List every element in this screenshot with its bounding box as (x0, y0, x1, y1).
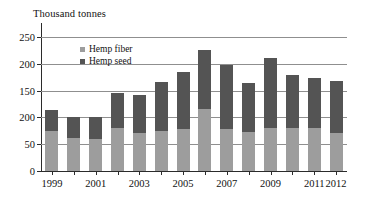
bar-segment-hemp-seed (220, 65, 233, 129)
bar-segment-hemp-seed (89, 117, 102, 140)
bar-segment-hemp-fiber (45, 131, 58, 171)
gridline (41, 37, 347, 38)
x-axis-label: 2012 (326, 178, 347, 189)
x-axis-tick (74, 171, 75, 175)
bar-segment-hemp-fiber (177, 129, 190, 171)
bar-segment-hemp-seed (308, 78, 321, 128)
bar-segment-hemp-seed (177, 72, 190, 129)
x-axis-tick (227, 171, 228, 175)
bar-segment-hemp-fiber (220, 129, 233, 171)
bar-segment-hemp-seed (45, 110, 58, 131)
bar-segment-hemp-fiber (111, 128, 124, 171)
bar-segment-hemp-fiber (242, 132, 255, 171)
bar-segment-hemp-fiber (89, 139, 102, 171)
x-axis-label: 2007 (216, 178, 237, 189)
y-axis-label: 0 (30, 166, 35, 177)
bar-segment-hemp-seed (198, 50, 211, 109)
gridline (41, 144, 347, 145)
bar-2010 (286, 75, 299, 171)
y-axis-label: 250 (19, 32, 35, 43)
y-axis-label: 200 (19, 58, 35, 69)
bar-segment-hemp-fiber (133, 133, 146, 171)
y-axis-tick (37, 144, 41, 145)
x-axis-baseline (41, 171, 347, 172)
bar-segment-hemp-seed (286, 75, 299, 128)
y-axis-tick (37, 37, 41, 38)
hemp-production-chart: Thousand tonnes 250200150200500199920012… (0, 0, 369, 200)
x-axis-tick (205, 171, 206, 175)
bar-1999 (45, 110, 58, 171)
x-axis-label: 2009 (260, 178, 281, 189)
bar-2011 (308, 78, 321, 171)
bar-segment-hemp-seed (133, 95, 146, 133)
x-axis-tick (161, 171, 162, 175)
x-axis-tick (292, 171, 293, 175)
y-axis-tick (37, 117, 41, 118)
legend-item-label: Hemp fiber (89, 43, 133, 55)
bar-segment-hemp-seed (67, 117, 80, 138)
bar-segment-hemp-fiber (308, 128, 321, 171)
x-axis-tick (96, 171, 97, 175)
x-axis-label: 2001 (85, 178, 106, 189)
bar-segment-hemp-seed (155, 82, 168, 132)
gridline (41, 117, 347, 118)
bar-2003 (133, 95, 146, 171)
bar-2000 (67, 117, 80, 171)
bar-2007 (220, 65, 233, 171)
gridline (41, 91, 347, 92)
legend-swatch-icon (80, 59, 85, 64)
bar-segment-hemp-fiber (155, 131, 168, 171)
x-axis-tick (183, 171, 184, 175)
legend-item: Hemp seed (80, 55, 133, 67)
y-axis-label: 150 (19, 85, 35, 96)
bar-2001 (89, 117, 102, 171)
bar-2002 (111, 93, 124, 171)
legend-item: Hemp fiber (80, 43, 133, 55)
bar-2012 (330, 81, 343, 171)
bar-segment-hemp-seed (264, 58, 277, 128)
x-axis-tick (336, 171, 337, 175)
x-axis-tick (118, 171, 119, 175)
bar-segment-hemp-fiber (198, 109, 211, 171)
y-axis-label: 50 (25, 139, 36, 150)
chart-legend: Hemp fiberHemp seed (80, 43, 133, 67)
x-axis-label: 1999 (41, 178, 62, 189)
bar-2004 (155, 82, 168, 172)
legend-swatch-icon (80, 47, 85, 52)
bar-segment-hemp-seed (330, 81, 343, 134)
bar-2006 (198, 50, 211, 171)
y-axis-caption: Thousand tonnes (33, 8, 106, 19)
x-axis-tick (314, 171, 315, 175)
x-axis-tick (271, 171, 272, 175)
y-axis-tick (37, 171, 41, 172)
legend-item-label: Hemp seed (89, 55, 131, 67)
y-axis-label: 200 (19, 112, 35, 123)
bar-segment-hemp-fiber (264, 128, 277, 171)
bar-segment-hemp-seed (242, 83, 255, 133)
x-axis-label: 2011 (304, 178, 325, 189)
bar-2009 (264, 58, 277, 171)
bar-segment-hemp-seed (111, 93, 124, 128)
x-axis-label: 2005 (173, 178, 194, 189)
x-axis-tick (139, 171, 140, 175)
x-axis-label: 2003 (129, 178, 150, 189)
x-axis-tick (52, 171, 53, 175)
bar-segment-hemp-fiber (286, 128, 299, 171)
bar-2008 (242, 83, 255, 171)
bar-segment-hemp-fiber (330, 133, 343, 171)
x-axis-tick (249, 171, 250, 175)
bar-segment-hemp-fiber (67, 138, 80, 171)
y-axis-tick (37, 91, 41, 92)
bar-2005 (177, 72, 190, 171)
y-axis-tick (37, 64, 41, 65)
